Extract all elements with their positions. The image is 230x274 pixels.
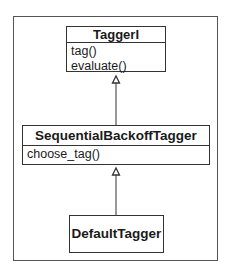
class-name: SequentialBackoffTagger xyxy=(23,126,209,145)
class-name: TaggerI xyxy=(67,27,165,42)
class-methods: choose_tag() xyxy=(23,145,209,162)
inheritance-arrow-default-to-seq xyxy=(113,168,120,215)
method: tag() xyxy=(71,44,165,59)
class-box-sequential-backoff-tagger: SequentialBackoffTagger choose_tag() xyxy=(22,125,210,165)
method: choose_tag() xyxy=(27,147,209,162)
class-name: DefaultTagger xyxy=(70,216,163,252)
class-methods: tag() evaluate() xyxy=(67,42,165,74)
class-box-default-tagger: DefaultTagger xyxy=(69,215,164,253)
inheritance-arrow-seq-to-taggeri xyxy=(113,76,120,125)
method: evaluate() xyxy=(71,59,165,74)
class-box-taggeri: TaggerI tag() evaluate() xyxy=(66,26,166,72)
